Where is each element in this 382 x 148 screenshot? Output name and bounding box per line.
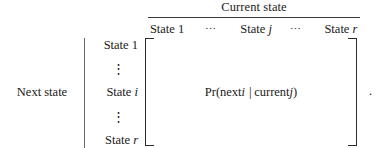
probability-function-name: Pr <box>205 85 216 100</box>
current-state-group-label: Current state <box>148 0 360 15</box>
column-header-row: State 1 ⋯ State j ⋯ State r <box>148 21 360 37</box>
transition-matrix-figure: Current state State 1 ⋯ State j ⋯ State … <box>0 0 382 148</box>
row-header-ellipsis-upper: ⋮ <box>112 62 122 76</box>
row-header-state-1: State 1 <box>104 38 138 52</box>
current-state-header-rule <box>148 17 360 18</box>
column-index-r: r <box>353 22 358 36</box>
column-header-state-j: State j <box>240 21 272 37</box>
row-header-ellipsis-lower: ⋮ <box>112 110 122 124</box>
next-state-header-rule <box>84 38 85 148</box>
conditional-bar: | <box>247 84 255 100</box>
matrix-body: Pr(next i|current j) <box>145 38 357 146</box>
row-header-column: State 1 ⋮ State i ⋮ State r <box>88 38 138 148</box>
row-index-i: i <box>135 85 138 99</box>
column-index-j: j <box>268 22 271 36</box>
next-state-group-label: Next state <box>6 84 78 100</box>
row-header-state-r: State r <box>105 133 138 147</box>
column-header-ellipsis-right: ⋯ <box>290 21 303 37</box>
entry-event-index-i: i <box>242 85 245 100</box>
column-header-ellipsis-left: ⋯ <box>205 21 218 37</box>
row-index-r: r <box>133 133 138 147</box>
column-header-state-r: State r <box>324 21 357 37</box>
row-header-state-i: State i <box>106 85 138 99</box>
entry-given-text: current <box>254 85 289 100</box>
left-square-bracket <box>145 38 154 146</box>
right-square-bracket <box>348 38 357 146</box>
trailing-period: . <box>369 83 372 99</box>
close-paren: ) <box>293 85 297 100</box>
entry-event-text: next <box>220 85 242 100</box>
matrix-generic-entry: Pr(next i|current j) <box>154 38 348 146</box>
column-header-state-1: State 1 <box>150 21 184 37</box>
